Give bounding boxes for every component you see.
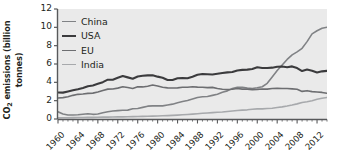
legend-swatch-china: [62, 21, 76, 22]
legend-swatch-eu: [62, 50, 76, 51]
legend-swatch-usa: [62, 35, 76, 37]
legend-item-eu: EU: [62, 43, 142, 58]
x-axis-tick-labels: 1960196419681972197619801984198819921996…: [0, 0, 342, 157]
legend-item-india: India: [62, 58, 142, 73]
legend: China USA EU India: [62, 14, 142, 72]
legend-label-china: China: [81, 16, 108, 27]
co2-emissions-line-chart: CO2 emissions (billiontonnes) 121086420 …: [0, 0, 342, 157]
legend-swatch-india: [62, 64, 76, 65]
legend-item-china: China: [62, 14, 142, 29]
legend-label-india: India: [81, 59, 104, 70]
legend-label-usa: USA: [81, 30, 100, 41]
legend-item-usa: USA: [62, 29, 142, 44]
legend-label-eu: EU: [81, 45, 94, 56]
